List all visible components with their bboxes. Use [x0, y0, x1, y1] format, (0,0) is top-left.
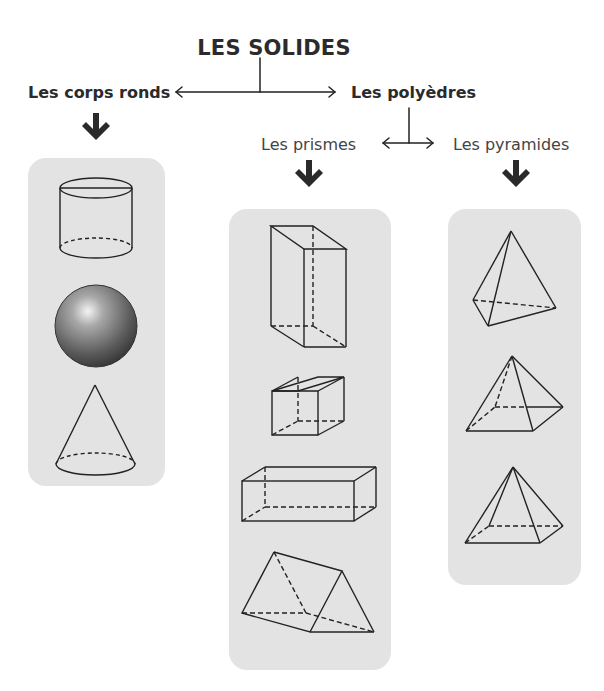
cone-icon [56, 385, 135, 475]
long-rectangular-prism-icon [242, 467, 376, 521]
polyhedra-connector [383, 108, 433, 148]
down-arrow-icon [82, 113, 110, 140]
square-pyramid-icon [466, 356, 563, 431]
down-arrow-icon [502, 160, 530, 187]
triangular-pyramid-icon [473, 231, 556, 326]
sphere-icon [55, 285, 137, 367]
cylinder-icon [60, 178, 132, 258]
title-connector [176, 58, 335, 97]
tall-rectangular-prism-icon [271, 226, 346, 347]
cube-icon [272, 377, 344, 435]
rectangular-pyramid-icon [465, 467, 563, 543]
diagram-drawing [0, 0, 604, 691]
triangular-prism-icon [242, 552, 374, 632]
down-arrow-icon [295, 160, 323, 187]
